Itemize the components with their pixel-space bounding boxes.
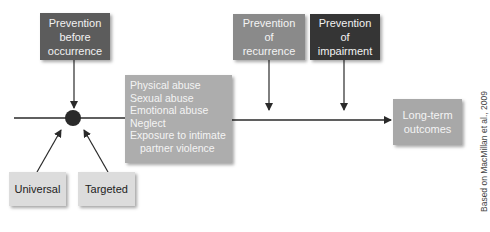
box-label: Targeted: [85, 182, 128, 196]
box-line: Emotional abuse: [130, 104, 226, 117]
prevention-before-occurrence-box: Prevention before occurrence: [40, 13, 110, 60]
box-line: occurrence: [48, 44, 102, 58]
box-line: before: [48, 30, 102, 44]
box-line: Sexual abuse: [130, 92, 226, 105]
box-line: Prevention: [318, 16, 372, 30]
source-credit: Based on MacMillan et al., 2009: [479, 91, 489, 212]
box-line: impairment: [318, 44, 372, 58]
onset-dot: [65, 110, 81, 126]
arrow-universal: [37, 130, 61, 172]
prevention-of-recurrence-box: Prevention of recurrence: [233, 14, 305, 60]
box-line: Physical abuse: [130, 79, 226, 92]
box-line: outcomes: [402, 122, 452, 136]
box-line: of: [318, 30, 372, 44]
box-line: Neglect: [130, 117, 226, 130]
box-line: of: [243, 30, 296, 44]
box-line: Prevention: [48, 16, 102, 30]
universal-box: Universal: [9, 172, 66, 206]
prevention-of-impairment-box: Prevention of impairment: [310, 14, 380, 60]
box-line: Exposure to intimate: [130, 129, 226, 142]
maltreatment-types-box: Physical abuse Sexual abuse Emotional ab…: [125, 75, 232, 163]
targeted-box: Targeted: [78, 172, 135, 206]
box-line: Prevention: [243, 16, 296, 30]
box-line: Long-term: [402, 108, 452, 122]
long-term-outcomes-box: Long-term outcomes: [393, 99, 462, 145]
arrow-targeted: [84, 130, 108, 172]
box-line: recurrence: [243, 44, 296, 58]
box-label: Universal: [15, 182, 61, 196]
box-line: partner violence: [130, 142, 226, 155]
